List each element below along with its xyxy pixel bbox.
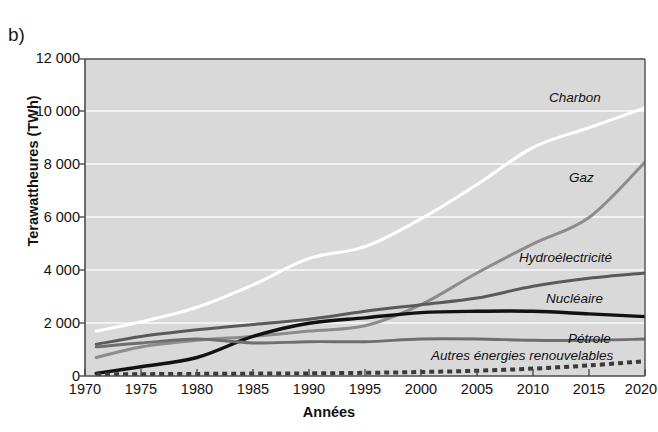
series-label-gaz: Gaz (569, 170, 594, 185)
series-label-petrole: Pétrole (568, 331, 611, 346)
series-label-autres-renouvelables: Autres énergies renouvelables (431, 348, 613, 363)
plot-area (0, 0, 658, 432)
figure-panel-b: b) Terawattheures (TWh) Années 0 2 000 4… (0, 0, 658, 432)
series-label-nucleaire: Nucléaire (546, 291, 603, 306)
series-label-hydro: Hydroélectricité (519, 250, 612, 265)
series-label-charbon: Charbon (549, 90, 601, 105)
